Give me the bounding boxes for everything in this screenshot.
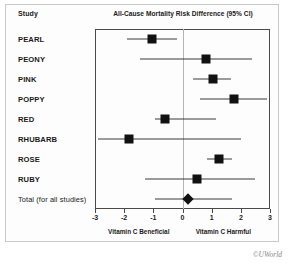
study-label-total-for-all-studies: Total (for all studies): [18, 195, 86, 204]
study-label-rose: ROSE: [18, 155, 40, 164]
x-axis-tick-label: -2: [121, 214, 127, 221]
point-estimate-marker: [124, 135, 133, 144]
point-estimate-marker: [209, 75, 218, 84]
x-axis-tick: [212, 209, 213, 213]
x-axis-tick-label: 3: [268, 214, 272, 221]
x-axis-tick: [124, 209, 125, 213]
x-axis-tick-label: -3: [92, 214, 98, 221]
x-axis-tick: [270, 209, 271, 213]
confidence-interval-line: [140, 59, 252, 60]
forest-plot-figure: Study All-Cause Mortality Risk Differenc…: [0, 0, 288, 262]
study-column-header: Study: [18, 10, 38, 17]
point-estimate-marker: [161, 115, 170, 124]
x-axis-tick-label: 2: [239, 214, 243, 221]
x-axis-tick-label: 0: [181, 214, 185, 221]
axis-note-beneficial: Vitamin C Beneficial: [108, 228, 169, 235]
axis-note-harmful: Vitamin C Harmful: [196, 228, 251, 235]
point-estimate-marker: [229, 95, 238, 104]
x-axis-tick-label: -1: [150, 214, 156, 221]
confidence-interval-line: [98, 139, 241, 140]
study-label-rhubarb: RHUBARB: [18, 135, 57, 144]
study-label-poppy: POPPY: [18, 95, 45, 104]
x-axis-tick: [153, 209, 154, 213]
point-estimate-marker: [214, 155, 223, 164]
x-axis-tick: [95, 209, 96, 213]
study-label-ruby: RUBY: [18, 175, 40, 184]
uworld-watermark: ©UWorld: [253, 250, 282, 259]
study-label-peony: PEONY: [18, 55, 45, 64]
point-estimate-marker: [201, 55, 210, 64]
study-label-red: RED: [18, 115, 34, 124]
x-axis-tick: [241, 209, 242, 213]
study-label-pink: PINK: [18, 75, 37, 84]
x-axis-tick-label: 1: [210, 214, 214, 221]
chart-title: All-Cause Mortality Risk Difference (95%…: [95, 10, 271, 17]
point-estimate-marker: [193, 175, 202, 184]
x-axis-tick: [183, 209, 184, 213]
study-label-pearl: PEARL: [18, 35, 44, 44]
point-estimate-marker: [147, 35, 156, 44]
